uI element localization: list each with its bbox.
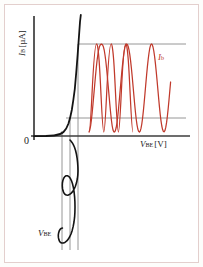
x-axis-subscript: BE xyxy=(146,142,154,148)
origin-label: 0 xyxy=(24,135,29,146)
y-axis-label: IB[µA] xyxy=(14,18,30,78)
input-voltage-label: VBE xyxy=(38,228,51,238)
transistor-transfer-characteristic-plot xyxy=(0,0,203,267)
y-axis-unit: [µA] xyxy=(17,30,27,48)
output-current-label: Ib xyxy=(158,52,164,62)
y-axis-subscript: B xyxy=(20,49,26,53)
input-voltage-subscript: BE xyxy=(44,231,52,237)
input-voltage-waveform xyxy=(58,140,78,243)
figure-container: IB[µA] VBE[V] 0 Ib VBE xyxy=(0,0,203,267)
x-axis-label: VBE[V] xyxy=(140,139,167,149)
y-axis-symbol: I xyxy=(17,53,27,56)
x-axis-unit: [V] xyxy=(154,139,167,149)
output-current-subscript: b xyxy=(161,55,164,61)
guide-lines xyxy=(62,44,186,250)
